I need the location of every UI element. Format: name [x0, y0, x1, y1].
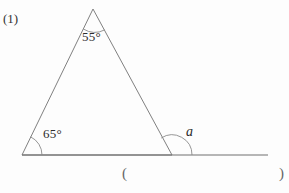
answer-paren-open: (: [122, 166, 127, 181]
answer-paren-close: ): [279, 166, 284, 181]
triangle-side-right: [93, 9, 172, 155]
bottom-left-angle-label: 65°: [43, 127, 62, 140]
bottom-left-angle-arc: [31, 137, 43, 155]
geometry-figure: [0, 0, 289, 193]
problem-number-label: (1): [3, 12, 18, 25]
apex-angle-label: 55°: [82, 30, 101, 43]
worksheet-page: (1) 55° 65° a ( ): [0, 0, 289, 193]
exterior-angle-label: a: [186, 125, 193, 139]
